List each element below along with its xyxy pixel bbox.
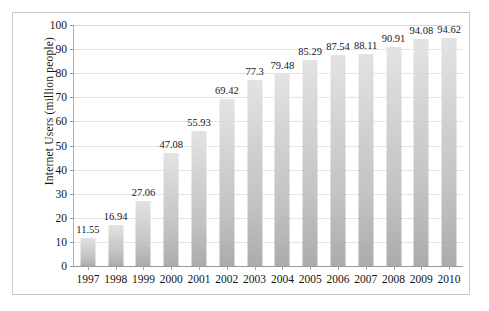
bar-value-label: 90.91 [382,33,406,44]
y-tick-label: 30 [56,188,68,200]
x-tick-mark [227,266,228,270]
x-tick-mark [394,266,395,270]
chart-figure: Internet Users (million people) 01020304… [0,0,489,311]
x-tick-mark [199,266,200,270]
x-tick-label: 2005 [299,273,322,285]
y-tick-label: 20 [56,212,68,224]
bar[interactable] [442,38,457,266]
bar[interactable] [358,54,373,266]
x-tick-mark [366,266,367,270]
bar[interactable] [80,238,95,266]
x-tick-mark [449,266,450,270]
bar-value-label: 94.08 [410,25,434,36]
bar-group: 79.482004 [269,25,297,266]
chart-frame: Internet Users (million people) 01020304… [12,12,470,295]
y-tick-label: 90 [56,43,68,55]
bar-group: 90.912008 [380,25,408,266]
bar-value-label: 88.11 [354,40,377,51]
y-tick-label: 0 [61,260,67,272]
x-tick-mark [310,266,311,270]
x-tick-label: 2009 [410,273,433,285]
bar[interactable] [136,201,151,266]
bar[interactable] [164,153,179,266]
bar[interactable] [192,131,207,266]
y-axis-title: Internet Users (million people) [43,11,55,211]
y-tick-label: 10 [56,236,68,248]
y-tick-label: 80 [56,67,68,79]
y-tick-label: 100 [50,19,67,31]
bar-value-label: 69.42 [215,85,239,96]
x-tick-mark [143,266,144,270]
bar[interactable] [219,99,234,266]
bar-value-label: 79.48 [271,60,295,71]
bar-group: 85.292005 [296,25,324,266]
y-tick-label: 50 [56,140,68,152]
bar-value-label: 16.94 [104,211,128,222]
x-tick-label: 2010 [438,273,461,285]
x-tick-label: 1997 [76,273,99,285]
x-tick-mark [255,266,256,270]
x-tick-label: 2003 [243,273,266,285]
bar-group: 16.941998 [102,25,130,266]
bar-group: 69.422002 [213,25,241,266]
y-tick-label: 40 [56,164,68,176]
x-tick-label: 2000 [160,273,183,285]
bar-value-label: 77.3 [245,66,263,77]
x-tick-mark [421,266,422,270]
x-tick-mark [88,266,89,270]
bar-value-label: 11.55 [76,224,99,235]
x-tick-mark [171,266,172,270]
bar[interactable] [330,55,345,266]
x-tick-label: 1998 [104,273,127,285]
bar[interactable] [275,74,290,266]
bar-group: 47.082000 [157,25,185,266]
plot-area: 0102030405060708090100 11.55199716.94199… [73,25,463,267]
x-tick-label: 2001 [188,273,211,285]
y-tick-label: 70 [56,91,68,103]
bar-value-label: 55.93 [187,117,211,128]
bar[interactable] [303,60,318,266]
x-tick-label: 2002 [215,273,238,285]
bar-value-label: 85.29 [298,46,322,57]
bar[interactable] [414,39,429,266]
bar-group: 87.542006 [324,25,352,266]
bar-group: 94.622010 [435,25,463,266]
bar-value-label: 47.08 [159,139,183,150]
bar[interactable] [386,47,401,266]
bar-value-label: 94.62 [437,24,461,35]
bar-group: 94.082009 [407,25,435,266]
bars-layer: 11.55199716.94199827.06199947.08200055.9… [74,25,463,266]
bar-group: 11.551997 [74,25,102,266]
x-tick-label: 2006 [326,273,349,285]
x-tick-label: 2007 [354,273,377,285]
x-tick-label: 2004 [271,273,294,285]
bar-group: 88.112007 [352,25,380,266]
bar-group: 55.932001 [185,25,213,266]
bar-group: 77.32003 [241,25,269,266]
bar-value-label: 27.06 [132,187,156,198]
x-tick-mark [338,266,339,270]
bar[interactable] [247,80,262,266]
y-tick-mark [70,266,74,267]
x-tick-label: 1999 [132,273,155,285]
x-tick-mark [116,266,117,270]
bar-value-label: 87.54 [326,41,350,52]
x-tick-label: 2008 [382,273,405,285]
bar[interactable] [108,225,123,266]
x-tick-mark [282,266,283,270]
y-tick-label: 60 [56,115,68,127]
bar-group: 27.061999 [130,25,158,266]
